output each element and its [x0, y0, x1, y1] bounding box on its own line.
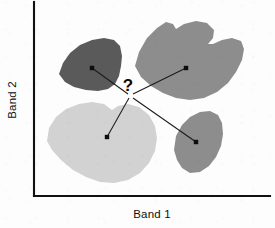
- centroid-dot-dark-gray: [90, 66, 94, 70]
- x-axis-label: Band 1: [133, 208, 171, 220]
- y-axis-label: Band 2: [6, 81, 18, 119]
- cluster-regions: [47, 21, 244, 183]
- centroid-dot-light-gray: [105, 135, 109, 139]
- cluster-diagram-figure: ? Band 1 Band 2: [0, 0, 275, 228]
- cluster-light-gray: [47, 102, 157, 183]
- query-point-label: ?: [123, 76, 133, 95]
- plot-canvas: ? Band 1 Band 2: [0, 0, 275, 228]
- cluster-medium-gray-large: [135, 21, 244, 100]
- cluster-medium-gray-small: [174, 111, 223, 173]
- centroid-dot-medium-gray-large: [184, 66, 188, 70]
- centroid-dot-medium-gray-small: [194, 140, 198, 144]
